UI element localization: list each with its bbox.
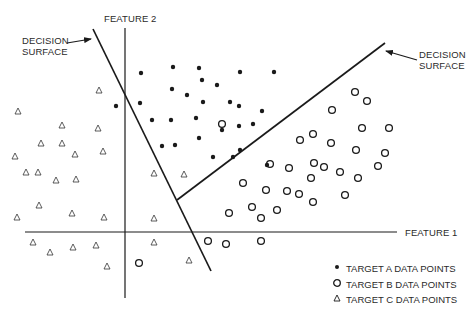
left-surface-arrow-icon (67, 39, 91, 43)
target-c-point (12, 153, 18, 159)
target-a-point (173, 143, 177, 147)
target-b-point (359, 125, 366, 132)
target-a-point (197, 136, 201, 140)
left-decision-surface-label-line2: SURFACE (22, 46, 69, 57)
target-b-point (310, 199, 317, 206)
left-decision-surface-label-line1: DECISION (22, 35, 69, 46)
target-a-point (211, 155, 215, 159)
right-decision-surface-label: DECISION SURFACE (419, 49, 466, 71)
target-c-point (38, 140, 44, 146)
target-b-point (321, 164, 328, 171)
open-circle-icon (332, 278, 342, 290)
feature2-axis-label: FEATURE 2 (104, 13, 156, 24)
target-c-point (151, 215, 157, 221)
filled-dot-icon (332, 263, 342, 274)
target-c-point (151, 170, 157, 176)
target-b-point (297, 137, 304, 144)
target-b-point (219, 121, 226, 128)
target-b-point (296, 191, 303, 198)
target-b-point (263, 187, 270, 194)
target-b-point (386, 125, 393, 132)
target-b-point (355, 175, 362, 182)
target-b-points (136, 89, 393, 267)
target-c-point (151, 239, 157, 245)
target-b-point (310, 131, 317, 138)
target-b-point (136, 260, 143, 267)
target-b-point (364, 98, 371, 105)
legend-label-target-b: TARGET B DATA POINTS (346, 279, 457, 290)
target-b-point (258, 215, 265, 222)
target-a-point (231, 155, 235, 159)
target-b-point (352, 89, 359, 96)
target-b-point (353, 147, 360, 154)
target-b-point (311, 160, 318, 167)
triangle-icon (332, 293, 342, 305)
target-c-point (30, 239, 36, 245)
target-a-point (139, 71, 143, 75)
target-b-point (226, 210, 233, 217)
target-a-point (238, 148, 242, 152)
left-decision-surface-label: DECISION SURFACE (22, 35, 69, 57)
target-c-point (69, 210, 75, 216)
target-b-point (240, 180, 247, 187)
target-c-point (59, 122, 65, 128)
target-c-point (95, 125, 101, 131)
target-b-point (205, 238, 212, 245)
target-a-point (150, 118, 154, 122)
legend-item-target-c: TARGET C DATA POINTS (332, 293, 457, 305)
target-a-point (237, 124, 241, 128)
target-c-point (101, 214, 107, 220)
feature1-axis-label: FEATURE 1 (405, 227, 457, 238)
target-a-point (114, 104, 118, 108)
target-c-point (15, 108, 21, 114)
axes (25, 28, 397, 298)
target-b-point (223, 241, 230, 248)
legend-item-target-b: TARGET B DATA POINTS (332, 278, 457, 290)
target-a-point (272, 70, 276, 74)
target-a-point (201, 100, 205, 104)
target-a-point (160, 144, 164, 148)
target-b-point (375, 163, 382, 170)
target-c-point (104, 263, 110, 269)
target-a-point (169, 118, 173, 122)
target-a-point (194, 116, 198, 120)
target-b-point (274, 207, 281, 214)
target-a-point (170, 87, 174, 91)
target-c-point (72, 151, 78, 157)
target-c-point (96, 87, 102, 93)
target-b-point (284, 188, 291, 195)
target-b-point (337, 169, 344, 176)
target-c-point (23, 169, 29, 175)
target-a-point (220, 128, 224, 132)
target-a-point (238, 70, 242, 74)
target-a-point (200, 78, 204, 82)
target-a-point (138, 101, 142, 105)
legend-label-target-a: TARGET A DATA POINTS (346, 263, 456, 274)
target-a-point (228, 100, 232, 104)
target-a-point (237, 104, 241, 108)
target-b-point (328, 140, 335, 147)
target-c-point (47, 249, 53, 255)
target-c-point (14, 214, 20, 220)
label-arrows (67, 39, 417, 60)
target-b-point (342, 192, 349, 199)
target-c-point (93, 242, 99, 248)
target-b-point (286, 165, 293, 172)
target-a-points (114, 65, 276, 167)
target-a-point (197, 66, 201, 70)
target-b-point (249, 204, 256, 211)
target-b-point (258, 238, 265, 245)
target-b-point (308, 175, 315, 182)
legend-item-target-a: TARGET A DATA POINTS (332, 263, 456, 274)
right-decision-surface-label-line2: SURFACE (419, 60, 466, 71)
target-c-point (70, 244, 76, 250)
left-decision-surface-line (93, 29, 211, 271)
right-decision-surface-label-line1: DECISION (419, 49, 466, 60)
target-c-point (36, 202, 42, 208)
target-c-point (181, 171, 187, 177)
target-a-point (185, 93, 189, 97)
right-surface-arrow-icon (386, 51, 417, 60)
target-b-point (329, 107, 336, 114)
target-c-point (186, 257, 192, 263)
target-a-point (171, 65, 175, 69)
